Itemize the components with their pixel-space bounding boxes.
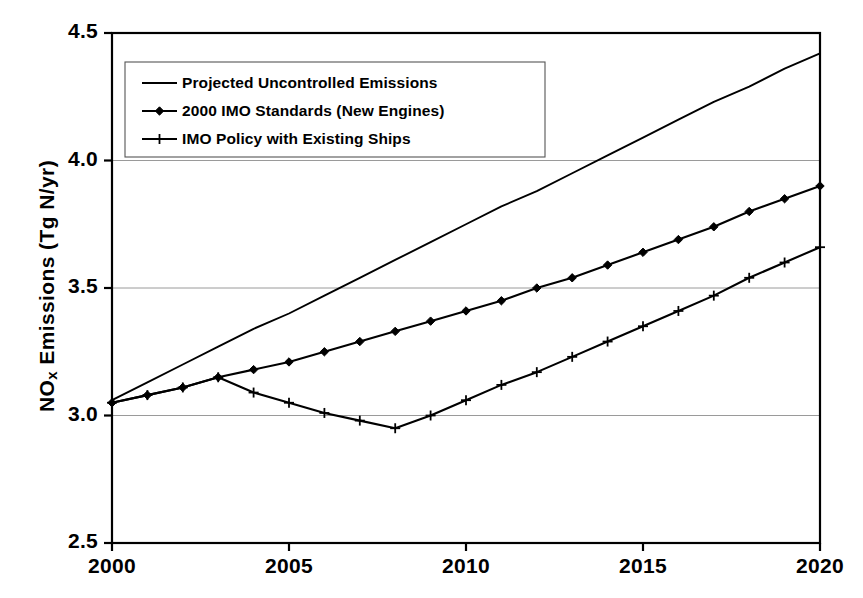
data-point-marker-diamond — [816, 182, 824, 190]
data-point-marker-plus — [213, 372, 223, 382]
data-point-marker-plus — [709, 291, 719, 301]
data-point-marker-diamond — [249, 365, 257, 373]
legend-label: 2000 IMO Standards (New Engines) — [182, 102, 444, 119]
data-point-marker-plus — [284, 398, 294, 408]
data-point-marker-plus — [673, 306, 683, 316]
data-point-marker-plus — [744, 273, 754, 283]
data-point-marker-plus — [249, 388, 259, 398]
data-point-marker-diamond — [568, 274, 576, 282]
data-point-marker-diamond — [603, 261, 611, 269]
chart-legend: Projected Uncontrolled Emissions2000 IMO… — [125, 62, 545, 157]
data-point-marker-diamond — [462, 307, 470, 315]
data-point-marker-plus — [319, 408, 329, 418]
data-point-marker-diamond — [356, 337, 364, 345]
data-point-marker-diamond — [533, 284, 541, 292]
data-point-marker-diamond — [745, 207, 753, 215]
data-point-marker-plus — [178, 382, 188, 392]
data-point-marker-diamond — [710, 223, 718, 231]
data-point-marker-diamond — [674, 235, 682, 243]
data-point-marker-plus — [390, 423, 400, 433]
data-point-marker-plus — [496, 380, 506, 390]
data-point-marker-diamond — [320, 348, 328, 356]
data-point-marker-plus — [780, 258, 790, 268]
data-series — [107, 242, 825, 433]
data-point-marker-plus — [567, 352, 577, 362]
legend-item: IMO Policy with Existing Ships — [142, 130, 411, 147]
data-point-marker-diamond — [780, 195, 788, 203]
legend-item: 2000 IMO Standards (New Engines) — [142, 102, 444, 119]
data-point-marker-diamond — [391, 327, 399, 335]
data-point-marker-plus — [461, 395, 471, 405]
data-point-marker-plus — [355, 416, 365, 426]
data-point-marker-plus — [603, 337, 613, 347]
data-point-marker-diamond — [639, 248, 647, 256]
data-point-marker-diamond — [426, 317, 434, 325]
chart-figure: NOx Emissions (Tg N/yr) 2.53.03.54.04.5 … — [0, 0, 863, 598]
data-point-marker-plus — [532, 367, 542, 377]
data-point-marker-plus — [142, 390, 152, 400]
data-point-marker-diamond — [497, 297, 505, 305]
data-point-marker-plus — [638, 321, 648, 331]
legend-label: IMO Policy with Existing Ships — [182, 130, 411, 147]
data-point-marker-plus — [426, 411, 436, 421]
legend-label: Projected Uncontrolled Emissions — [182, 74, 438, 91]
plot-area: Projected Uncontrolled Emissions2000 IMO… — [0, 0, 863, 598]
data-point-marker-diamond — [285, 358, 293, 366]
data-point-marker-plus — [815, 242, 825, 252]
legend-item: Projected Uncontrolled Emissions — [142, 74, 438, 91]
